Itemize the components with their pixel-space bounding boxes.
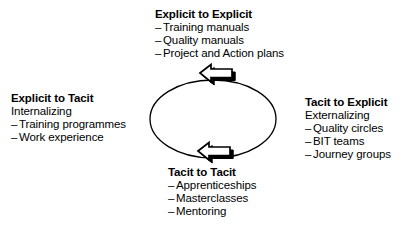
block-heading: Explicit to Explicit [155, 8, 284, 21]
block-heading: Tacit to Explicit [305, 96, 391, 109]
list-item: –Masterclasses [168, 192, 256, 205]
cycle-diagram [140, 62, 288, 172]
list-item-label: Work experience [19, 131, 104, 143]
list-item: –Project and Action plans [155, 47, 284, 60]
dash-marker: – [305, 135, 313, 148]
dash-marker: – [305, 148, 313, 161]
block-item-list: –Quality circles –BIT teams –Journey gro… [305, 122, 391, 161]
list-item: –Work experience [11, 131, 126, 144]
dash-marker: – [168, 192, 176, 205]
list-item-label: Training manuals [163, 21, 249, 33]
dash-marker: – [168, 179, 176, 192]
block-item-list: –Training manuals –Quality manuals –Proj… [155, 21, 284, 60]
dash-marker: – [11, 118, 19, 131]
dash-marker: – [305, 122, 313, 135]
list-item-label: Journey groups [313, 148, 391, 160]
list-item: –Training manuals [155, 21, 284, 34]
dash-marker: – [11, 131, 19, 144]
list-item-label: Apprenticeships [176, 179, 256, 191]
bottom-arrow [198, 143, 233, 164]
block-explicit-to-explicit: Explicit to Explicit –Training manuals –… [155, 8, 284, 60]
diagram-canvas: Explicit to Explicit –Training manuals –… [0, 0, 408, 230]
list-item: –Apprenticeships [168, 179, 256, 192]
list-item-label: Masterclasses [176, 192, 248, 204]
block-heading: Explicit to Tacit [11, 92, 126, 105]
dash-marker: – [168, 205, 176, 218]
dash-marker: – [155, 47, 163, 60]
list-item: –BIT teams [305, 135, 391, 148]
block-tacit-to-tacit: Tacit to Tacit –Apprenticeships –Masterc… [168, 166, 256, 218]
list-item-label: BIT teams [313, 135, 364, 147]
list-item-label: Quality circles [313, 122, 383, 134]
block-subtitle: Externalizing [305, 109, 391, 122]
list-item: –Quality circles [305, 122, 391, 135]
block-subtitle: Internalizing [11, 105, 126, 118]
dash-marker: – [155, 34, 163, 47]
list-item-label: Quality manuals [163, 34, 244, 46]
list-item-label: Training programmes [19, 118, 126, 130]
list-item: –Mentoring [168, 205, 256, 218]
list-item: –Journey groups [305, 148, 391, 161]
list-item: –Quality manuals [155, 34, 284, 47]
list-item: –Training programmes [11, 118, 126, 131]
block-explicit-to-tacit: Explicit to Tacit Internalizing –Trainin… [11, 92, 126, 144]
list-item-label: Mentoring [176, 205, 226, 217]
block-item-list: –Training programmes –Work experience [11, 118, 126, 144]
list-item-label: Project and Action plans [163, 47, 284, 59]
block-tacit-to-explicit: Tacit to Explicit Externalizing –Quality… [305, 96, 391, 161]
dash-marker: – [155, 21, 163, 34]
block-item-list: –Apprenticeships –Masterclasses –Mentori… [168, 179, 256, 218]
